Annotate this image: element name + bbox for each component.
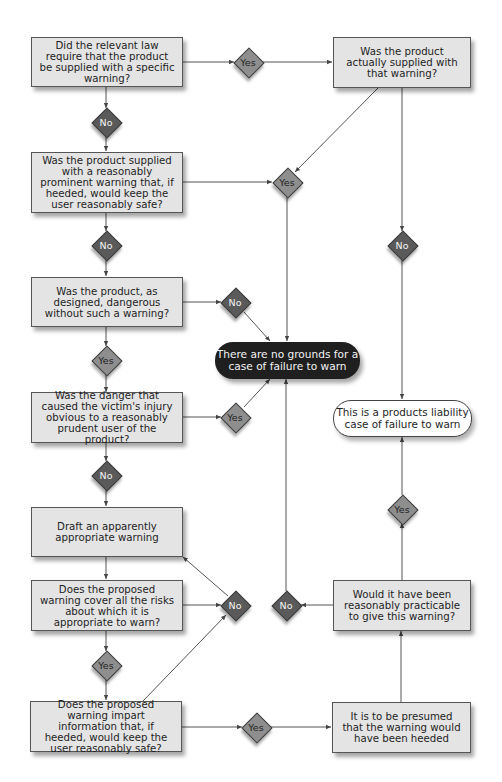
question-danger-obvious: Was the danger that caused the victim's … <box>31 392 183 443</box>
decision-no-diamond: No <box>92 461 120 489</box>
question-prominent-warning: Was the product supplied with a reasonab… <box>31 152 183 213</box>
terminal-products-liability: This is a products liability case of fai… <box>333 400 472 437</box>
decision-label: No <box>229 600 242 611</box>
decision-no-diamond: No <box>221 591 249 619</box>
decision-label: Yes <box>98 660 113 671</box>
node-label: Was the product supplied with a reasonab… <box>38 155 176 210</box>
decision-label: No <box>280 600 293 611</box>
decision-label: No <box>100 470 113 481</box>
decision-no-diamond: No <box>92 231 120 259</box>
question-cover-all-risks: Does the proposed warning cover all the … <box>31 580 183 631</box>
statement-presumed-heeded: It is to be presumed that the warning wo… <box>332 702 471 753</box>
node-label: Does the proposed warning cover all the … <box>38 584 176 628</box>
decision-label: Yes <box>240 57 255 68</box>
node-label: Would it have been reasonably practicabl… <box>340 589 464 622</box>
decision-no-diamond: No <box>388 231 416 259</box>
decision-no-diamond: No <box>272 591 300 619</box>
decision-label: No <box>229 297 242 308</box>
decision-label: Yes <box>279 177 294 188</box>
node-label: Was the product actually supplied with t… <box>340 46 464 79</box>
node-label: Does the proposed warning impart informa… <box>37 699 175 754</box>
question-law-required: Did the relevant law require that the pr… <box>31 37 183 87</box>
decision-label: No <box>396 240 409 251</box>
decision-yes-diamond: Yes <box>242 713 270 741</box>
decision-label: Yes <box>227 412 242 423</box>
question-impart-information: Does the proposed warning impart informa… <box>30 701 182 752</box>
node-label: Was the product, as designed, dangerous … <box>38 286 176 319</box>
decision-label: Yes <box>248 722 263 733</box>
terminal-no-grounds: There are no grounds for a case of failu… <box>215 342 360 379</box>
decision-label: Yes <box>394 504 409 515</box>
decision-no-diamond: No <box>221 288 249 316</box>
decision-yes-diamond: Yes <box>234 48 262 76</box>
decision-no-diamond: No <box>92 108 120 136</box>
decision-label: No <box>100 240 113 251</box>
question-dangerous-without-warning: Was the product, as designed, dangerous … <box>31 277 183 327</box>
decision-label: No <box>100 117 113 128</box>
decision-yes-diamond: Yes <box>273 168 301 196</box>
decision-yes-diamond: Yes <box>388 495 416 523</box>
decision-yes-diamond: Yes <box>92 651 120 679</box>
question-reasonably-practicable: Would it have been reasonably practicabl… <box>333 580 471 631</box>
node-label: It is to be presumed that the warning wo… <box>339 711 464 744</box>
decision-yes-diamond: Yes <box>221 403 249 431</box>
node-label: This is a products liability case of fai… <box>334 407 471 430</box>
decision-label: Yes <box>98 355 113 366</box>
node-label: Draft an apparently appropriate warning <box>38 521 176 543</box>
node-label: Did the relevant law require that the pr… <box>38 40 176 84</box>
node-label: There are no grounds for a case of failu… <box>215 349 360 372</box>
question-actually-supplied: Was the product actually supplied with t… <box>333 37 471 88</box>
node-label: Was the danger that caused the victim's … <box>38 390 176 445</box>
action-draft-warning: Draft an apparently appropriate warning <box>31 507 183 557</box>
decision-yes-diamond: Yes <box>92 346 120 374</box>
